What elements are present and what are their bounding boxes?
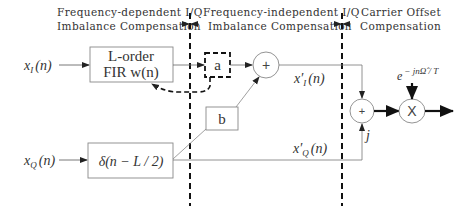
svg-text:L-order: L-order xyxy=(108,48,154,64)
svg-text:δ(n − L / 2): δ(n − L / 2) xyxy=(99,154,164,170)
input-signal-i: xI(n) xyxy=(23,58,52,75)
sum-node-2: + xyxy=(350,99,374,123)
svg-text:b: b xyxy=(218,111,226,127)
arrow-b-to-sum1 xyxy=(236,77,259,107)
svg-text:Carrier Offset: Carrier Offset xyxy=(361,6,441,18)
sum-node-1: + xyxy=(253,52,279,78)
svg-text:x′I(n): x′I(n) xyxy=(293,71,325,88)
svg-text:x′Q(n): x′Q(n) xyxy=(292,141,327,158)
svg-text:Frequency-dependent I/Q: Frequency-dependent I/Q xyxy=(57,6,203,18)
svg-text:Imbalance Compensation: Imbalance Compensation xyxy=(57,20,201,32)
svg-text:X: X xyxy=(407,103,417,119)
svg-text:+: + xyxy=(262,57,270,73)
signal-label-xq-prime: x′Q(n) xyxy=(292,141,327,158)
svg-text:xQ(n): xQ(n) xyxy=(23,153,55,170)
signal-label-xi-prime: x′I(n) xyxy=(293,71,325,88)
j-label: j xyxy=(364,128,370,143)
section-label-freq-independent: Frequency-independent I/Q Imbalance Comp… xyxy=(203,6,360,32)
path-xq-prime-to-sum2 xyxy=(173,124,362,160)
multiplier-node: X xyxy=(399,99,425,123)
svg-text:Imbalance Compensation: Imbalance Compensation xyxy=(208,20,352,32)
iq-compensation-diagram: Frequency-dependent I/Q Imbalance Compen… xyxy=(0,0,472,206)
svg-text:+: + xyxy=(359,105,365,117)
coefficient-b-block: b xyxy=(206,107,238,130)
svg-text:Compensation: Compensation xyxy=(360,20,441,32)
section-label-carrier-offset: Carrier Offset Compensation xyxy=(360,6,441,32)
svg-text:Frequency-independent I/Q: Frequency-independent I/Q xyxy=(203,6,360,18)
svg-text:FIR w(n): FIR w(n) xyxy=(103,64,158,81)
section-label-freq-dependent: Frequency-dependent I/Q Imbalance Compen… xyxy=(57,6,203,32)
fir-filter-block: L-order FIR w(n) xyxy=(90,47,173,82)
input-signal-q: xQ(n) xyxy=(23,153,55,170)
svg-text:a: a xyxy=(214,57,221,73)
carrier-offset-term: e− jnΩ̂ / T xyxy=(397,66,439,83)
delay-block: δ(n − L / 2) xyxy=(88,143,173,178)
svg-text:xI(n): xI(n) xyxy=(23,58,52,75)
coefficient-a-block: a xyxy=(205,53,230,77)
svg-text:e− jnΩ̂ / T: e− jnΩ̂ / T xyxy=(397,66,439,83)
